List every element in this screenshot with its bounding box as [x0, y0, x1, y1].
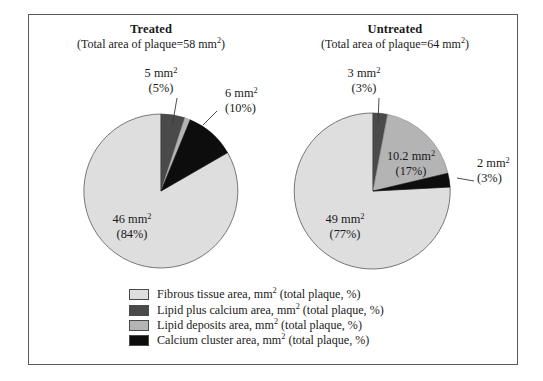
legend-swatch-fibrous-tissue	[129, 289, 149, 300]
pie-chart-untreated: 3 mm2 (3%) 10.2 mm2 (17%) 2 mm2 (3%) 49 …	[294, 66, 510, 269]
legend-label-lipid-deposits: Lipid deposits area, mm2 (total plaque, …	[157, 318, 362, 333]
pie-label-treated-fibrous-value: 46 mm2	[113, 212, 152, 226]
pie-label-untreated-lipid-deposits-pct: (17%)	[396, 164, 427, 178]
legend-swatch-lipid-plus-calcium	[129, 305, 149, 316]
pie-chart-treated: 5 mm2 (5%) 6 mm2 (10%) 46 mm2 (84%)	[84, 66, 258, 268]
leader-line-treated-calcium-cluster	[203, 111, 217, 125]
legend-label-lipid-plus-calcium: Lipid plus calcium area, mm2 (total plaq…	[157, 303, 384, 318]
pie-label-untreated-fibrous-value: 49 mm2	[326, 212, 365, 226]
pie-label-untreated-fibrous-pct: (77%)	[330, 227, 361, 241]
pie-label-treated-calcium-value: 6 mm2	[225, 86, 258, 100]
pie-label-treated-calcium-pct: (10%)	[225, 101, 256, 115]
leader-line-untreated-calcium-cluster	[457, 178, 474, 181]
legend-item-lipid-plus-calcium: Lipid plus calcium area, mm2 (total plaq…	[129, 302, 459, 317]
legend-label-calcium-cluster: Calcium cluster area, mm2 (total plaque,…	[157, 333, 369, 348]
legend-item-fibrous-tissue: Fibrous tissue area, mm2 (total plaque, …	[129, 287, 459, 302]
legend-swatch-calcium-cluster	[129, 335, 149, 346]
pie-label-untreated-calcium-value: 2 mm2	[477, 156, 510, 170]
pie-label-untreated-calcium-pct: (3%)	[477, 171, 502, 185]
legend-item-calcium-cluster: Calcium cluster area, mm2 (total plaque,…	[129, 333, 459, 348]
legend-item-lipid-deposits: Lipid deposits area, mm2 (total plaque, …	[129, 318, 459, 333]
pie-label-untreated-lipid-calcium-value: 3 mm2	[348, 66, 381, 80]
figure-frame: Treated (Total area of plaque=58 mm2) Un…	[28, 14, 518, 365]
pie-label-treated-lipid-calcium-pct: (5%)	[149, 81, 174, 95]
pie-label-untreated-lipid-deposits-value: 10.2 mm2	[387, 149, 435, 163]
pie-label-treated-fibrous-pct: (84%)	[117, 227, 148, 241]
legend-label-fibrous-tissue: Fibrous tissue area, mm2 (total plaque, …	[157, 287, 361, 302]
pie-label-untreated-lipid-calcium-pct: (3%)	[352, 81, 377, 95]
pie-label-treated-lipid-calcium-value: 5 mm2	[145, 66, 178, 80]
legend: Fibrous tissue area, mm2 (total plaque, …	[129, 287, 459, 349]
legend-swatch-lipid-deposits	[129, 320, 149, 331]
